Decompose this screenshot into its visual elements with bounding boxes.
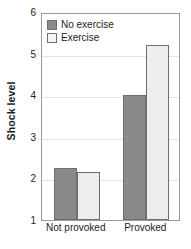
y-axis-tick-label: 1 (30, 216, 36, 226)
x-axis-tick-label: Not provoked (46, 223, 105, 233)
x-axis-tick-labels: Not provokedProvoked (41, 223, 180, 239)
plot-area: No exercise Exercise (41, 13, 180, 221)
legend-swatch-exercise-icon (47, 33, 57, 43)
x-axis-tick-label: Provoked (124, 223, 166, 233)
bar-exercise-not-provoked (77, 172, 100, 220)
y-axis-tick-labels: 123456 (22, 0, 39, 249)
bar-no-exercise-provoked (123, 95, 146, 220)
bar-chart-figure: Shock level 123456 No exercise Exercise … (0, 0, 191, 249)
legend-label-no-exercise: No exercise (61, 20, 114, 30)
legend-entry-no-exercise: No exercise (47, 18, 114, 31)
bar-no-exercise-not-provoked (54, 168, 77, 220)
legend-label-exercise: Exercise (61, 33, 99, 43)
y-axis-title: Shock level (0, 0, 22, 221)
y-axis-tick-label: 5 (30, 50, 36, 60)
y-axis-title-label: Shock level (5, 81, 17, 140)
y-axis-tick-label: 2 (30, 174, 36, 184)
y-axis-tick-label: 6 (30, 8, 36, 18)
y-axis-tick-label: 3 (30, 133, 36, 143)
chart-legend: No exercise Exercise (45, 16, 118, 46)
bar-exercise-provoked (146, 45, 169, 220)
legend-entry-exercise: Exercise (47, 31, 114, 44)
y-axis-tick-label: 4 (30, 91, 36, 101)
legend-swatch-no-exercise-icon (47, 20, 57, 30)
